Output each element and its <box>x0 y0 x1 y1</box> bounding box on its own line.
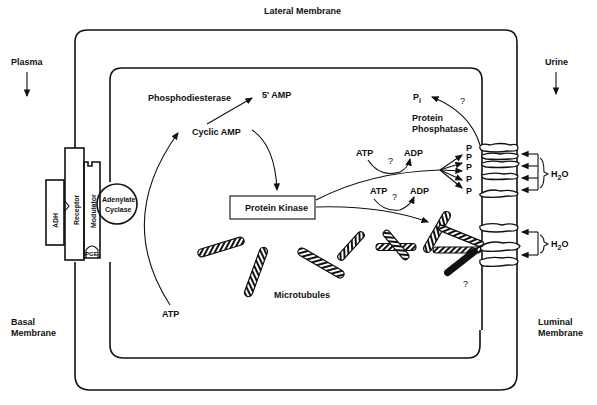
atp-bottom-label: ATP <box>162 309 179 319</box>
p-label: P <box>466 162 472 172</box>
microtubule <box>243 246 268 298</box>
adenylate-cyclase <box>97 184 137 224</box>
adenylate-label: Adenylate <box>102 196 136 204</box>
receptor-label: Receptor <box>73 194 81 225</box>
phosphodiesterase-label: Phosphodiesterase <box>148 93 231 103</box>
basal-membrane-label-2: Membrane <box>11 328 56 338</box>
h2o-label-1: H2O <box>551 169 568 181</box>
protein-kinase-label: Protein Kinase <box>245 203 308 213</box>
h2o-label-2: H2O <box>551 239 568 251</box>
lateral-membrane-label: Lateral Membrane <box>264 6 341 16</box>
adp-label-1: ADP <box>404 148 423 158</box>
question-1: ? <box>388 156 393 166</box>
adh-label: ADH <box>52 213 59 228</box>
p-label: P <box>466 152 472 162</box>
atp-label-1: ATP <box>356 148 373 158</box>
h2o-flux-2: H2O <box>522 232 568 255</box>
question-pi: ? <box>460 96 465 106</box>
cyclase-label: Cyclase <box>105 206 132 214</box>
h2o-flux-1: H2O <box>522 154 568 190</box>
p-label: P <box>466 186 472 196</box>
5amp-label: 5' AMP <box>262 90 291 100</box>
modulator-label: Modulator <box>90 194 97 228</box>
adh-mechanism-diagram: Lateral Membrane Plasma Urine ADH Recept… <box>0 0 597 405</box>
kinase-to-microtubule-line <box>316 207 428 222</box>
microtubule <box>197 236 245 258</box>
camp-label: Cyclic AMP <box>192 127 241 137</box>
question-2: ? <box>392 192 397 202</box>
adh-box <box>46 180 64 245</box>
adp-label-2: ADP <box>410 186 429 196</box>
protein-phosphatase-label-1: Protein <box>412 113 443 123</box>
plasma-label: Plasma <box>11 57 44 67</box>
microtubules-label: Microtubules <box>274 290 330 300</box>
luminal-membrane-label-1: Luminal <box>538 317 573 327</box>
atp-label-2: ATP <box>370 186 387 196</box>
p-label: P <box>466 174 472 184</box>
question-microtubule: ? <box>463 279 468 289</box>
membrane-particles <box>480 144 520 267</box>
microtubule <box>438 224 485 248</box>
luminal-membrane-label-2: Membrane <box>538 328 583 338</box>
urine-label: Urine <box>545 57 568 67</box>
microtubules <box>197 210 484 298</box>
outer-membrane-bottom <box>75 262 517 390</box>
atp-to-camp-arrow <box>144 133 178 305</box>
protein-phosphatase-label-2: Phosphatase <box>412 124 468 134</box>
basal-membrane-label-1: Basal <box>11 317 35 327</box>
pi-label: Pi <box>413 92 421 104</box>
phosphate-labels: P P P P P <box>466 143 472 196</box>
microtubule <box>336 230 365 261</box>
camp-to-kinase-arrow <box>252 130 277 190</box>
microtubule <box>296 247 345 280</box>
